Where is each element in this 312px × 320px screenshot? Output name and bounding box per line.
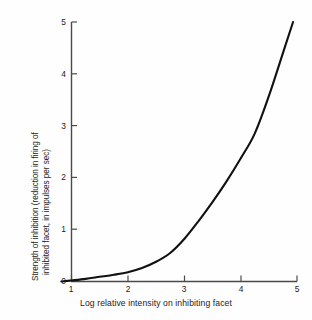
data-series-line [61,22,293,282]
plot-area [0,0,312,320]
x-axis-label: Log relative intensity on inhibiting fac… [0,298,312,308]
y-tick-marks [72,22,78,229]
figure-container: Strength of inhibition (reduction in fir… [0,0,312,320]
